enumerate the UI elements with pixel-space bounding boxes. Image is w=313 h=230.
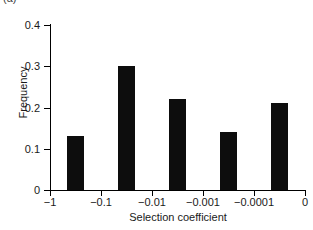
y-tick-mark: [44, 108, 50, 109]
panel-label: (a): [3, 0, 16, 4]
y-tick-label: 0: [34, 185, 40, 196]
x-tick-label: −0.01: [138, 197, 166, 208]
x-tick-label: −0.001: [186, 197, 220, 208]
x-tick-label: −0.1: [90, 197, 112, 208]
figure-panel: (a) 00.10.20.30.4 −1−0.1−0.01−0.001−0.00…: [0, 0, 313, 230]
x-tick-label: −0.0001: [234, 197, 274, 208]
y-tick-mark: [44, 66, 50, 67]
x-axis-line: [50, 190, 306, 191]
bar: [67, 136, 84, 190]
bar: [220, 132, 237, 190]
bar: [118, 66, 135, 190]
y-tick-label: 0.4: [25, 20, 40, 31]
y-axis-title: Frequency: [18, 38, 29, 148]
x-tick-label: 0: [302, 197, 308, 208]
bar: [169, 99, 186, 190]
y-tick-mark: [44, 25, 50, 26]
bar: [271, 103, 288, 190]
x-tick-label: −1: [44, 197, 57, 208]
y-axis-line: [50, 24, 51, 191]
x-axis-title: Selection coefficient: [50, 212, 306, 223]
y-tick-mark: [44, 149, 50, 150]
